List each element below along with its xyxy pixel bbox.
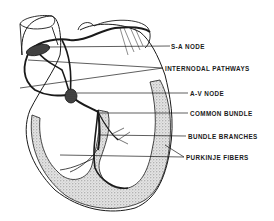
ventricular-wall (31, 80, 170, 208)
label-common-bundle: COMMON BUNDLE (190, 110, 253, 117)
av-node-shape (65, 89, 77, 103)
label-av-node: A-V NODE (190, 90, 224, 97)
label-sa-node: S-A NODE (171, 43, 205, 50)
label-bundle-branches: BUNDLE BRANCHES (188, 133, 258, 140)
label-purkinje-fibers: PURKINJE FIBERS (186, 154, 249, 161)
heart-conduction-diagram: S-A NODE INTERNODAL PATHWAYS A-V NODE CO… (0, 0, 274, 221)
sa-node-shape (25, 42, 51, 58)
label-internodal-pathways: INTERNODAL PATHWAYS (165, 65, 250, 72)
